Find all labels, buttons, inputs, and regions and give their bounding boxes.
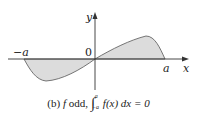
caption-prefix: (b)	[47, 97, 63, 109]
neg-a-label: −a	[13, 46, 29, 59]
positive-area-region	[95, 36, 165, 59]
pos-a-label: a	[163, 62, 170, 75]
integral-limits: a−a	[95, 99, 103, 109]
y-axis-label: y	[85, 11, 93, 24]
figure-caption: (b) f odd, ∫a−af(x) dx = 0	[0, 94, 197, 111]
origin-label: 0	[85, 46, 92, 59]
x-axis-label: x	[183, 62, 190, 75]
x-axis-arrow-icon	[182, 57, 189, 62]
lower-limit: −a	[92, 104, 99, 110]
integrand: f(x) dx = 0	[103, 97, 150, 109]
caption-odd: odd,	[66, 97, 91, 109]
upper-limit: a	[95, 93, 98, 99]
y-axis-arrow-icon	[93, 12, 98, 19]
negative-area-region	[24, 59, 95, 81]
